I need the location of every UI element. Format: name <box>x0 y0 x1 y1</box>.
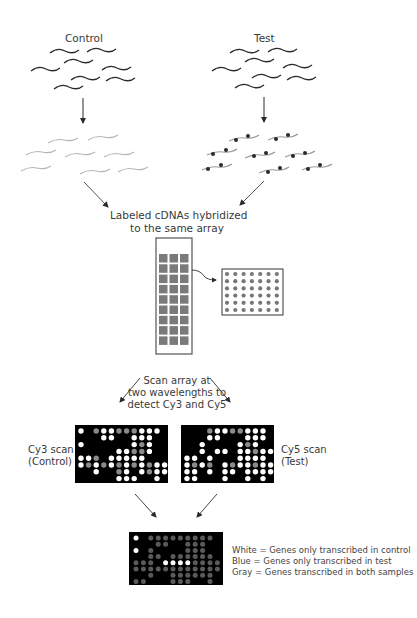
scan-caption: Scan array at two wavelengths to detect … <box>118 375 236 411</box>
cy3-scan-label: Cy3 scan (Control) <box>28 444 74 468</box>
scan-line-3: detect Cy3 and Cy5 <box>118 399 236 411</box>
control-labeled-cdnas <box>21 135 148 174</box>
cy3-line-1: Cy3 scan <box>28 444 74 456</box>
merge-left-arrow <box>135 494 156 517</box>
cy5-line-2: (Test) <box>281 456 327 468</box>
cy3-scan-panel <box>75 425 168 483</box>
merge-right-arrow <box>197 494 217 517</box>
array-spots <box>159 254 189 345</box>
cy5-scan-panel <box>181 425 274 483</box>
scan-line-1: Scan array at <box>118 375 236 387</box>
legend-white: White = Genes only transcribed in contro… <box>232 545 413 556</box>
test-mrna-strands <box>212 48 316 88</box>
control-to-array-arrow <box>84 182 108 207</box>
cy5-line-1: Cy5 scan <box>281 444 327 456</box>
control-label: Control <box>65 32 103 45</box>
test-labeled-cdnas <box>202 133 332 174</box>
hybridization-line-2: to the same array <box>110 222 244 235</box>
scan-line-2: two wavelengths to <box>118 387 236 399</box>
zoom-connector-arrow <box>192 270 216 280</box>
merged-scan-panel <box>129 532 223 585</box>
legend-blue: Blue = Genes only transcribed in test <box>232 556 413 567</box>
dye-markers <box>206 133 322 174</box>
zoomed-array <box>222 269 283 315</box>
legend-gray: Gray = Genes transcribed in both samples <box>232 567 413 578</box>
workflow-diagram <box>0 0 417 618</box>
control-mrna-strands <box>31 48 135 89</box>
cy5-scan-label: Cy5 scan (Test) <box>281 444 327 468</box>
cy3-line-2: (Control) <box>28 456 74 468</box>
microarray-slide <box>156 238 192 354</box>
hybridization-caption: Labeled cDNAs hybridized to the same arr… <box>110 209 244 235</box>
test-to-array-arrow <box>240 181 264 205</box>
legend: White = Genes only transcribed in contro… <box>232 545 413 578</box>
hybridization-line-1: Labeled cDNAs hybridized <box>110 209 244 222</box>
test-label: Test <box>254 32 275 45</box>
